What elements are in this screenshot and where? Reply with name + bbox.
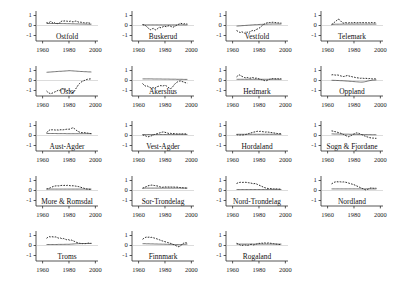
y-tick-label: 1 [219, 66, 222, 73]
x-tick-label: 1960 [226, 156, 239, 163]
series-observed [47, 128, 92, 134]
x-tick-label: 1960 [226, 266, 239, 273]
x-tick-label: 2000 [89, 266, 102, 273]
y-tick-label: 0 [125, 241, 129, 248]
x-tick-label: 2000 [374, 46, 387, 53]
panel-rogaland: 10-1196019802000Rogaland [204, 226, 300, 281]
x-tick-label: 1980 [159, 101, 172, 108]
y-tick-label: -1 [216, 86, 222, 93]
panel-troms: 10-1196019802000Troms [14, 226, 110, 281]
x-tick-label: 2000 [374, 101, 387, 108]
series-observed [332, 75, 377, 79]
x-tick-label: 2000 [185, 211, 198, 218]
series-fitted [143, 244, 188, 245]
x-tick-label: 1960 [132, 266, 145, 273]
x-tick-label: 1960 [36, 156, 49, 163]
x-tick-label: 1980 [253, 46, 266, 53]
x-tick-label: 2000 [374, 211, 387, 218]
y-tick-label: 0 [125, 76, 129, 83]
panel-title: Aust-Agder [50, 142, 85, 151]
y-tick-label: -1 [26, 251, 32, 258]
y-tick-label: -1 [216, 31, 222, 38]
panel-title: Vest-Agder [146, 142, 180, 151]
series-fitted [332, 80, 377, 82]
y-tick-label: -1 [311, 141, 317, 148]
panel-title: Vestfold [245, 32, 270, 41]
panel-aust-agder: 10-1196019802000Aust-Agder [14, 116, 110, 171]
x-tick-label: 1960 [321, 46, 334, 53]
x-tick-label: 1960 [36, 46, 49, 53]
panel-telemark: 10-1196019802000Telemark [299, 6, 395, 61]
panel-title: Akershus [149, 87, 177, 96]
x-tick-label: 1960 [132, 156, 145, 163]
panel-ostfold: 10-1196019802000Ostfold [14, 6, 110, 61]
y-tick-label: 1 [219, 121, 222, 128]
panel-title: Hedmark [243, 87, 271, 96]
series-observed [47, 237, 92, 244]
x-tick-label: 1980 [63, 266, 76, 273]
panel-title: Rogaland [243, 252, 272, 261]
y-tick-label: 1 [219, 231, 222, 238]
panel-title: Nordland [338, 197, 366, 206]
panel-finnmark: 10-1196019802000Finnmark [110, 226, 206, 281]
series-observed [237, 182, 282, 189]
y-tick-label: -1 [216, 141, 222, 148]
x-tick-label: 1960 [36, 266, 49, 273]
x-tick-label: 2000 [279, 46, 292, 53]
y-tick-label: 1 [29, 11, 32, 18]
x-tick-label: 1960 [226, 101, 239, 108]
panel-title: Sor-Trondelag [142, 197, 185, 206]
y-tick-label: 0 [29, 131, 33, 138]
y-tick-label: 1 [29, 231, 32, 238]
x-tick-label: 2000 [185, 46, 198, 53]
x-tick-label: 1980 [159, 266, 172, 273]
x-tick-label: 2000 [89, 211, 102, 218]
panel-title: Oppland [339, 87, 365, 96]
x-tick-label: 1980 [348, 211, 361, 218]
y-tick-label: 0 [29, 241, 33, 248]
y-tick-label: -1 [122, 86, 128, 93]
y-tick-label: 0 [314, 131, 318, 138]
x-tick-label: 2000 [279, 156, 292, 163]
y-tick-label: 1 [29, 121, 32, 128]
x-tick-label: 2000 [89, 46, 102, 53]
panel-vest-agder: 10-1196019802000Vest-Agder [110, 116, 206, 171]
x-tick-label: 1980 [253, 266, 266, 273]
panel-sogn-fjordane: 10-1196019802000Sogn & Fjordane [299, 116, 395, 171]
x-tick-label: 2000 [89, 156, 102, 163]
x-tick-label: 2000 [89, 101, 102, 108]
x-tick-label: 1960 [321, 156, 334, 163]
x-tick-label: 1980 [253, 101, 266, 108]
x-tick-label: 1980 [63, 156, 76, 163]
y-tick-label: 0 [29, 21, 33, 28]
y-tick-label: 0 [125, 21, 129, 28]
x-tick-label: 2000 [279, 266, 292, 273]
y-tick-label: 0 [314, 186, 318, 193]
x-tick-label: 2000 [185, 266, 198, 273]
y-tick-label: 1 [314, 176, 317, 183]
y-tick-label: -1 [216, 251, 222, 258]
y-tick-label: -1 [26, 31, 32, 38]
series-fitted [47, 24, 92, 25]
x-tick-label: 1980 [253, 156, 266, 163]
x-tick-label: 1980 [348, 46, 361, 53]
x-tick-label: 2000 [185, 101, 198, 108]
x-tick-label: 2000 [279, 101, 292, 108]
panel-buskerud: 10-1196019802000Buskerud [110, 6, 206, 61]
y-tick-label: -1 [122, 251, 128, 258]
x-tick-label: 1960 [36, 211, 49, 218]
y-tick-label: 0 [219, 76, 223, 83]
panel-title: Buskerud [149, 32, 178, 41]
y-tick-label: -1 [26, 141, 32, 148]
panel-nord-trondelag: 10-1196019802000Nord-Trondelag [204, 171, 300, 226]
y-tick-label: 0 [219, 186, 223, 193]
y-tick-label: -1 [311, 86, 317, 93]
y-tick-label: 0 [125, 131, 129, 138]
panel-nordland: 10-1196019802000Nordland [299, 171, 395, 226]
series-fitted [332, 134, 377, 135]
y-tick-label: -1 [311, 196, 317, 203]
panel-hedmark: 10-1196019802000Hedmark [204, 61, 300, 116]
series-fitted [237, 24, 282, 26]
y-tick-label: -1 [26, 86, 32, 93]
x-tick-label: 1980 [63, 101, 76, 108]
